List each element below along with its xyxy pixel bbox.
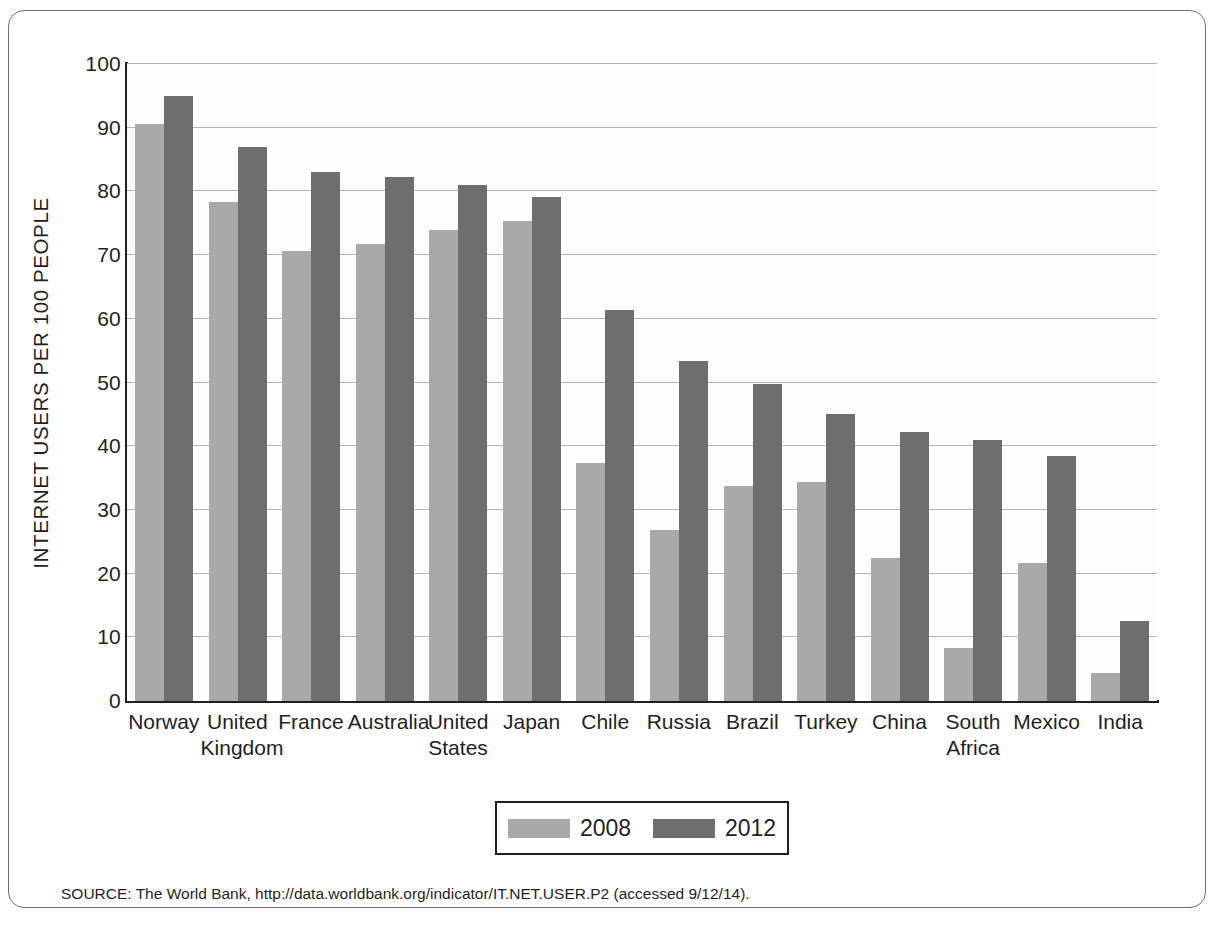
bar-group	[716, 64, 790, 701]
legend-label: 2012	[725, 815, 776, 842]
bar-2008	[576, 463, 605, 701]
y-tick-label: 50	[75, 371, 121, 395]
bar-2008	[944, 648, 973, 702]
bar-2012	[238, 147, 267, 701]
x-tick-label: South Africa	[936, 709, 1010, 761]
bar-2012	[900, 432, 929, 701]
bar-2008	[1018, 563, 1047, 701]
bar-2008	[209, 202, 238, 701]
chart-legend: 20082012	[495, 801, 789, 855]
legend-swatch	[653, 819, 715, 838]
bar-2012	[973, 440, 1002, 701]
x-tick-label: United Kingdom	[201, 709, 275, 761]
x-tick-label: India	[1083, 709, 1157, 735]
bar-2008	[1091, 673, 1120, 701]
x-tick-label: France	[274, 709, 348, 735]
bar-2012	[532, 197, 561, 701]
y-tick-label: 30	[75, 498, 121, 522]
y-tick-label: 80	[75, 179, 121, 203]
source-note: SOURCE: The World Bank, http://data.worl…	[61, 885, 750, 903]
y-tick-label: 40	[75, 434, 121, 458]
x-tick-label: Russia	[642, 709, 716, 735]
bar-group	[421, 64, 495, 701]
bar-2012	[458, 185, 487, 701]
bar-2012	[826, 414, 855, 701]
bar-group	[495, 64, 569, 701]
legend-entry: 2008	[508, 815, 631, 842]
y-axis-tick-labels: 0102030405060708090100	[65, 11, 121, 926]
y-tick-label: 90	[75, 116, 121, 140]
bar-2012	[1120, 621, 1149, 701]
x-tick-label: United States	[421, 709, 495, 761]
legend-swatch	[508, 819, 570, 838]
bar-2008	[724, 486, 753, 701]
x-tick-label: Brazil	[716, 709, 790, 735]
x-tick-label: Mexico	[1010, 709, 1084, 735]
bar-2008	[282, 251, 311, 701]
bar-group	[1010, 64, 1084, 701]
x-tick-label: Norway	[127, 709, 201, 735]
bar-2008	[429, 230, 458, 701]
y-tick-label: 60	[75, 307, 121, 331]
bar-group	[568, 64, 642, 701]
x-tick-label: Japan	[495, 709, 569, 735]
bar-group	[1083, 64, 1157, 701]
y-tick-label: 10	[75, 625, 121, 649]
bar-2012	[311, 172, 340, 701]
bar-2012	[679, 361, 708, 701]
legend-entry: 2012	[653, 815, 776, 842]
bar-2012	[385, 177, 414, 701]
bar-2008	[650, 530, 679, 701]
x-tick-label: Chile	[568, 709, 642, 735]
bar-2012	[164, 96, 193, 701]
y-tick-label: 0	[75, 689, 121, 713]
bar-group	[201, 64, 275, 701]
legend-label: 2008	[580, 815, 631, 842]
y-tick-label: 70	[75, 243, 121, 267]
bar-group	[348, 64, 422, 701]
y-axis-title: INTERNET USERS PER 100 PEOPLE	[29, 83, 53, 683]
bar-2008	[135, 124, 164, 701]
bar-2012	[753, 384, 782, 701]
bar-2008	[356, 244, 385, 701]
bar-group	[936, 64, 1010, 701]
bar-2012	[1047, 456, 1076, 701]
x-tick-label: China	[863, 709, 937, 735]
x-tick-label: Australia	[348, 709, 422, 735]
plot-area	[127, 64, 1157, 701]
bar-group	[127, 64, 201, 701]
bar-group	[789, 64, 863, 701]
bar-group	[863, 64, 937, 701]
x-tick-label: Turkey	[789, 709, 863, 735]
bar-2012	[605, 310, 634, 701]
y-tick-label: 20	[75, 562, 121, 586]
bar-group	[642, 64, 716, 701]
bar-2008	[503, 221, 532, 701]
bar-2008	[797, 482, 826, 701]
bar-group	[274, 64, 348, 701]
figure-frame: INTERNET USERS PER 100 PEOPLE 0102030405…	[8, 10, 1206, 908]
bar-2008	[871, 558, 900, 701]
y-tick-label: 100	[75, 52, 121, 76]
